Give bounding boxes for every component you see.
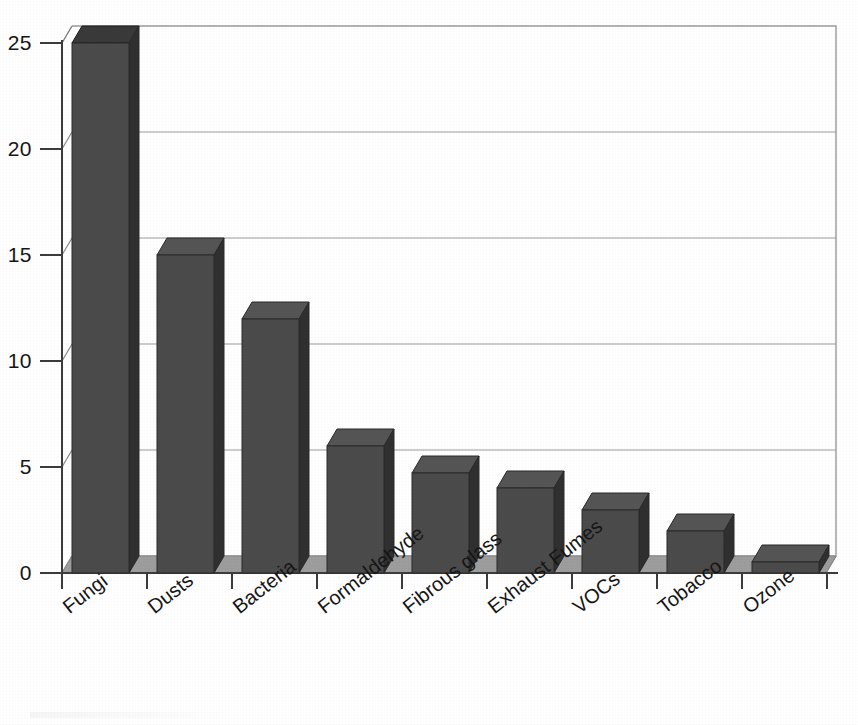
y-tick-label-10: 10 [0,350,32,371]
y-axis [40,40,62,575]
y-tick-label-25: 25 [0,32,32,53]
bar-dusts [157,238,224,573]
y-grid-depth-connectors [62,132,72,467]
bar-fungi [72,26,139,573]
y-tick-label-0: 0 [0,562,32,583]
bar-chart-figure: 25 20 15 10 5 0 Fungi Dusts Bacteria For… [0,0,858,725]
bar-bacteria [242,302,309,573]
y-tick-label-5: 5 [0,456,32,477]
chart-plot-area [0,0,858,725]
y-tick-label-20: 20 [0,138,32,159]
y-tick-label-15: 15 [0,244,32,265]
bar-ozone [752,545,829,573]
